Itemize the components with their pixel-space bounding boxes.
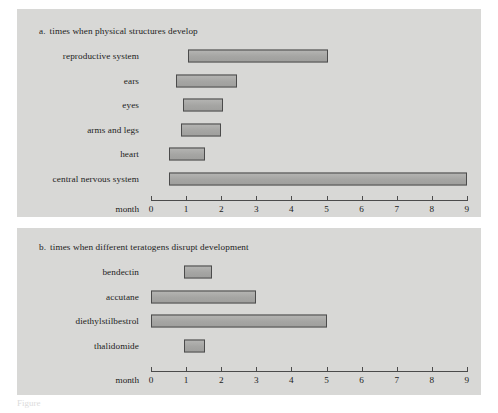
figure-caption-fragment: Figure	[17, 398, 137, 410]
x-axis-tick	[362, 367, 363, 372]
x-axis-tick-label: 7	[394, 204, 399, 214]
x-axis-tick-label: 7	[394, 375, 399, 385]
x-axis-tick-label: 1	[184, 375, 189, 385]
x-axis-tick-label: 3	[254, 375, 259, 385]
category-label: bendectin	[102, 267, 139, 277]
range-bar	[169, 148, 206, 161]
range-bar	[151, 315, 327, 328]
category-label: reproductive system	[63, 51, 139, 61]
range-bar	[151, 290, 256, 303]
x-axis-tick-label: 3	[254, 204, 259, 214]
x-axis-tick	[151, 367, 152, 372]
range-bar	[176, 74, 237, 87]
x-axis-tick	[151, 196, 152, 201]
x-axis-tick	[291, 196, 292, 201]
x-axis-tick-label: 8	[430, 375, 435, 385]
x-axis-tick	[186, 196, 187, 201]
x-axis-tick	[467, 367, 468, 372]
x-axis-name: month	[116, 204, 139, 214]
panel-b-plot: bendectinaccutanediethylstilbestrolthali…	[17, 228, 481, 395]
x-axis-tick-label: 8	[430, 204, 435, 214]
range-bar	[184, 339, 205, 352]
x-axis-line	[151, 371, 467, 372]
x-axis-tick-label: 0	[149, 375, 154, 385]
x-axis-tick-label: 2	[219, 204, 224, 214]
x-axis-tick-label: 5	[324, 375, 329, 385]
category-label: arms and legs	[87, 125, 139, 135]
x-axis-tick-label: 6	[359, 375, 364, 385]
category-label: ears	[124, 76, 139, 86]
category-label: diethylstilbestrol	[75, 316, 139, 326]
x-axis-tick-label: 0	[149, 204, 154, 214]
figure-container: a.times when physical structures develop…	[0, 0, 498, 413]
x-axis-tick	[432, 367, 433, 372]
x-axis-tick-label: 1	[184, 204, 189, 214]
panel-a-plot: reproductive systemearseyesarms and legs…	[17, 9, 481, 217]
range-bar	[169, 173, 467, 186]
x-axis-tick	[186, 367, 187, 372]
range-bar	[181, 123, 221, 136]
x-axis-tick	[397, 367, 398, 372]
range-bar	[183, 99, 223, 112]
x-axis-tick	[467, 196, 468, 201]
category-label: accutane	[106, 292, 139, 302]
x-axis-tick-label: 9	[465, 204, 470, 214]
x-axis-tick	[291, 367, 292, 372]
x-axis-tick-label: 6	[359, 204, 364, 214]
x-axis-tick	[221, 196, 222, 201]
panel-b: b.times when different teratogens disrup…	[17, 228, 481, 395]
x-axis-line	[151, 200, 467, 201]
range-bar	[188, 50, 328, 63]
x-axis-tick	[221, 367, 222, 372]
x-axis-tick-label: 5	[324, 204, 329, 214]
x-axis-tick	[432, 196, 433, 201]
x-axis-tick-label: 4	[289, 204, 294, 214]
x-axis-tick	[256, 196, 257, 201]
x-axis-tick	[362, 196, 363, 201]
x-axis-name: month	[116, 375, 139, 385]
x-axis-tick-label: 4	[289, 375, 294, 385]
x-axis-tick-label: 2	[219, 375, 224, 385]
category-label: central nervous system	[53, 174, 139, 184]
x-axis-tick	[256, 367, 257, 372]
category-label: thalidomide	[94, 341, 139, 351]
panel-a: a.times when physical structures develop…	[17, 9, 481, 217]
x-axis-tick	[397, 196, 398, 201]
range-bar	[184, 266, 212, 279]
x-axis-tick	[327, 367, 328, 372]
category-label: eyes	[122, 100, 139, 110]
x-axis-tick-label: 9	[465, 375, 470, 385]
x-axis-tick	[327, 196, 328, 201]
category-label: heart	[120, 149, 139, 159]
